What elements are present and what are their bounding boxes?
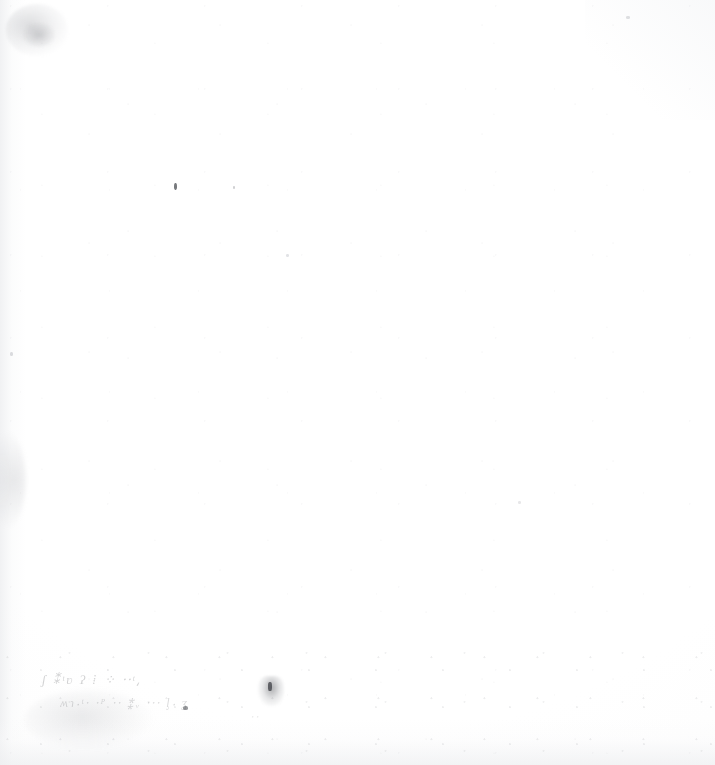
ink-speck-center-low — [518, 501, 521, 504]
ink-speck-center — [286, 254, 289, 257]
scanned-page: ʃ ⁑ᵗʋ ʔ ⁞ ⁘ ⸱⸱ᵗ⸲ ʍɿ⸳ᵗ⸱ ⸱ᴾ ⸱⸱ ⁑ᵥ ⸱⸱⸱ ᶅ⸳ ʓ… — [0, 0, 715, 765]
ink-speck-left-low — [10, 352, 13, 356]
ink-speck-top-right — [626, 16, 630, 19]
bottom-edge-shading — [0, 719, 715, 765]
ink-speck-upper-right — [233, 186, 235, 189]
paper-speckle-texture — [0, 0, 715, 765]
ink-speck-cluster-core — [268, 682, 272, 691]
faded-handwriting-block: ʃ ⁑ᵗʋ ʔ ⁞ ⁘ ⸱⸱ᵗ⸲ ʍɿ⸳ᵗ⸱ ⸱ᴾ ⸱⸱ ⁑ᵥ ⸱⸱⸱ ᶅ⸳ ʓ… — [42, 664, 322, 720]
ink-speck-upper-mid — [174, 183, 177, 190]
smudge-top-left — [6, 4, 68, 56]
handwriting-line-1: ʃ ⁑ᵗʋ ʔ ⁞ ⁘ ⸱⸱ᵗ⸲ — [42, 670, 141, 688]
handwriting-line-3: ⸱⸱ — [250, 708, 260, 725]
ink-cluster-right — [258, 676, 284, 706]
paper-speckle-texture-bottom — [0, 645, 715, 765]
smudge-top-left-secondary — [22, 22, 56, 48]
left-edge-shading — [0, 0, 26, 765]
handwriting-line-2: ʍɿ⸳ᵗ⸱ ⸱ᴾ ⸱⸱ ⁑ᵥ ⸱⸱⸱ ᶅ⸳ ʓ — [60, 694, 189, 711]
smudge-bottom-left-wash — [24, 690, 154, 750]
paper-tone — [0, 0, 715, 765]
smudge-left-mid — [0, 432, 26, 528]
top-right-edge-shading — [585, 0, 715, 120]
ink-speck-line2-dark — [183, 706, 188, 710]
